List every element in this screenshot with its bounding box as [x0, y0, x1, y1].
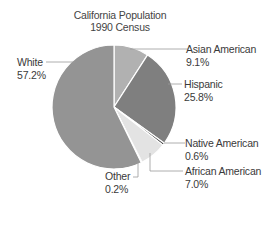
- label-asian-american-name: Asian American: [186, 43, 256, 56]
- pie-slices: [52, 45, 176, 169]
- label-african-american-name: African American: [185, 165, 261, 178]
- label-other-value: 0.2%: [105, 183, 130, 196]
- label-hispanic-name: Hispanic: [184, 78, 223, 91]
- label-asian-american-value: 9.1%: [186, 56, 256, 69]
- label-hispanic-value: 25.8%: [184, 91, 223, 104]
- label-other: Other 0.2%: [105, 170, 130, 196]
- label-native-american: Native American 0.6%: [185, 137, 258, 163]
- label-african-american: African American 7.0%: [185, 165, 261, 191]
- label-native-american-value: 0.6%: [185, 150, 258, 163]
- label-asian-american: Asian American 9.1%: [186, 43, 256, 69]
- label-african-american-value: 7.0%: [185, 178, 261, 191]
- label-white-value: 57.2%: [17, 69, 46, 82]
- label-native-american-name: Native American: [185, 137, 258, 150]
- label-white: White 57.2%: [17, 56, 46, 82]
- label-other-name: Other: [105, 170, 130, 183]
- label-hispanic: Hispanic 25.8%: [184, 78, 223, 104]
- label-white-name: White: [17, 56, 46, 69]
- leader-african: [150, 153, 183, 171]
